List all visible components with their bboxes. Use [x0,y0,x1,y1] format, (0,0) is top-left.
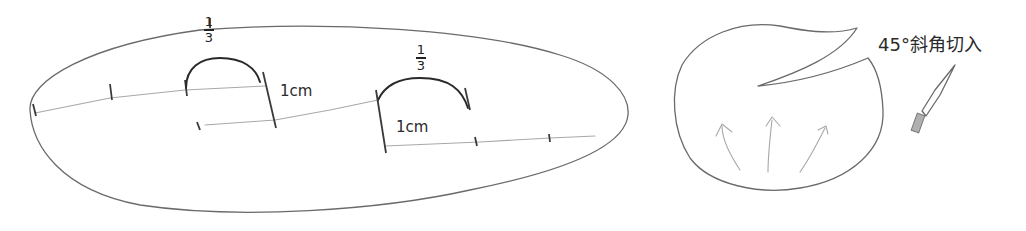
oval-outline [30,26,628,212]
arc-one-third [378,78,468,108]
measurement-label: 1cm [396,118,428,136]
fraction-label: 1 3 [416,44,426,72]
tick-mark [33,104,36,116]
arrow-icon [800,128,825,172]
guide-line-lower [385,136,595,146]
fraction-numerator: 1 [417,44,425,56]
guide-line-upper [35,86,265,113]
tick-mark [475,137,477,146]
arrow-icon [716,124,732,136]
measurement-label: 1cm [280,82,312,100]
arrow-icon [766,117,780,126]
guide-line-middle [205,100,378,125]
fraction-label: 1 3 [204,16,214,44]
arrow-icon [768,120,772,172]
tick-mark [197,122,200,130]
fraction-denominator: 3 [205,32,213,44]
arrow-icon [722,126,740,170]
tick-mark [549,134,550,142]
fraction-denominator: 3 [417,60,425,72]
tick-mark [263,72,276,128]
fraction-numerator: 1 [205,16,213,28]
arc-one-third [186,58,260,88]
tick-mark [376,90,386,153]
round-shape-outline [674,25,883,190]
cut-angle-annotation: 45°斜角切入 [878,30,982,56]
sketch-canvas [0,0,1026,231]
knife-icon [911,65,955,133]
